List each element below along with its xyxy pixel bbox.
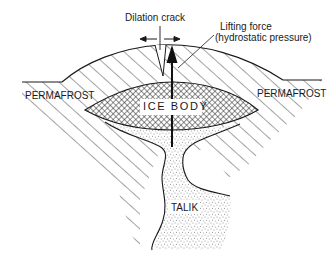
permafrost-right-label: PERMAFROST: [257, 88, 326, 99]
permafrost-left-label: PERMAFROST: [25, 90, 94, 101]
dilation-crack-label: Dilation crack: [125, 12, 185, 23]
hydrostatic-pressure-label: (hydrostatic pressure): [215, 32, 312, 43]
ice-body-label: ICE BODY: [143, 101, 208, 112]
lifting-force-label: Lifting force: [220, 21, 272, 32]
talik-label: TALIK: [171, 202, 198, 213]
